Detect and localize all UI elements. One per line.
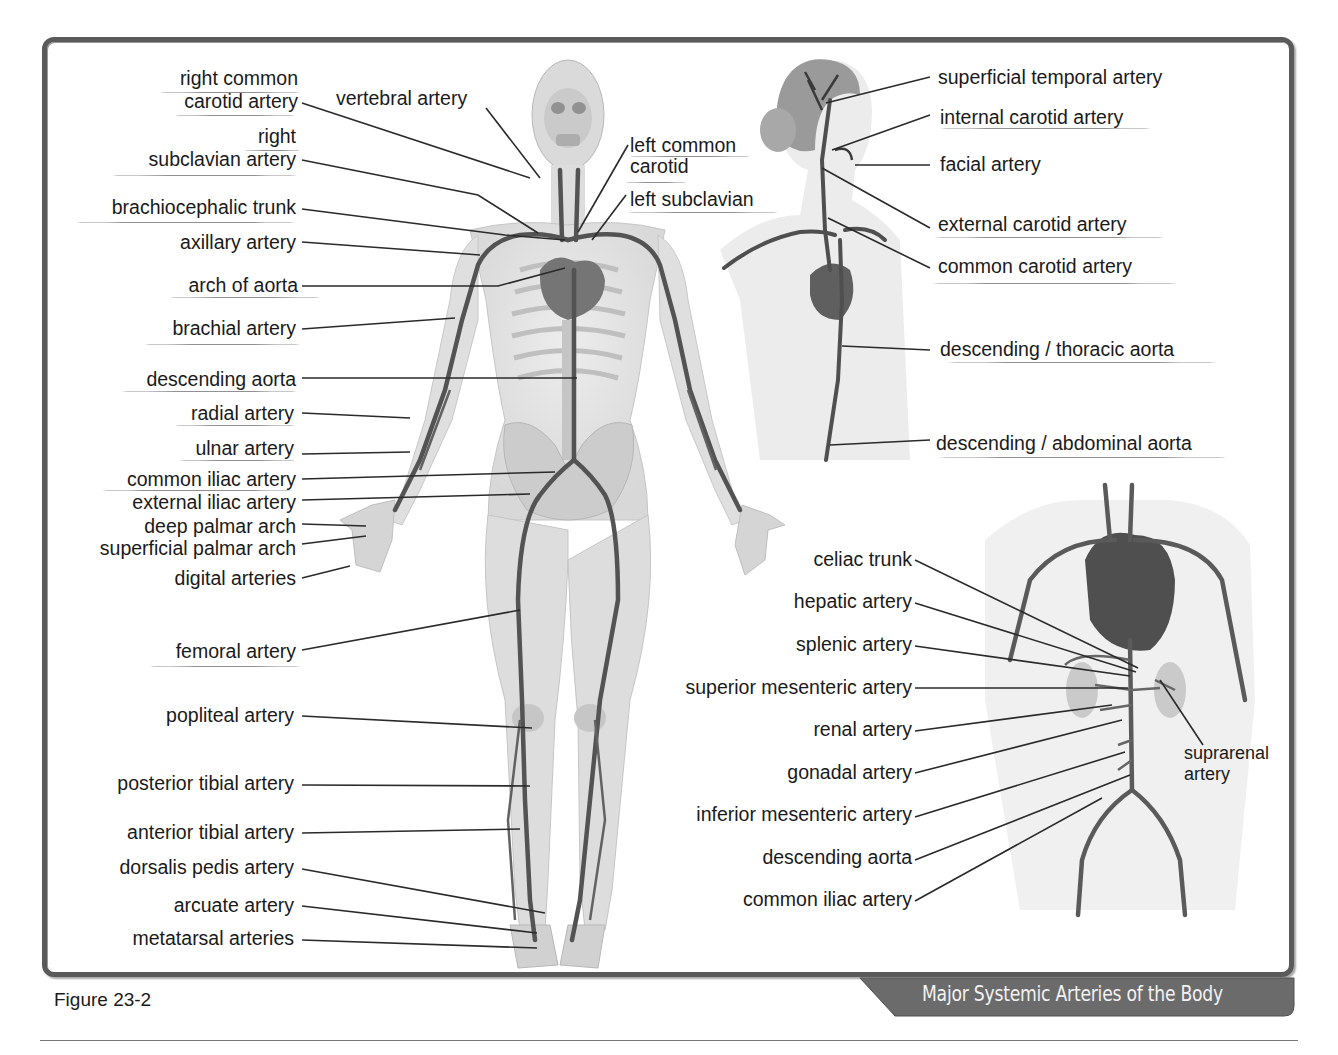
head-neck-figure: [720, 59, 910, 460]
label-dorsalis-pedis-artery: dorsalis pedis artery: [120, 857, 295, 877]
label-splenic-artery: splenic artery: [796, 634, 912, 654]
label-facial-artery: facial artery: [940, 154, 1041, 174]
label-arch-of-aorta: arch of aorta: [189, 275, 298, 295]
label-common-iliac-artery: common iliac artery: [127, 469, 296, 489]
label-popliteal-artery: popliteal artery: [166, 705, 294, 725]
label-descending-thoracic-aorta: descending / thoracic aorta: [940, 339, 1174, 359]
underline: [160, 92, 300, 93]
label-axillary-artery: axillary artery: [180, 232, 296, 252]
label-ulnar-artery: ulnar artery: [195, 438, 294, 458]
label-common-iliac-artery-abdominal: common iliac artery: [743, 889, 912, 909]
label-inferior-mesenteric-artery: inferior mesenteric artery: [696, 804, 912, 824]
label-superficial-temporal-artery: superficial temporal artery: [938, 67, 1162, 87]
underline: [175, 115, 295, 116]
label-descending-abdominal-aorta: descending / abdominal aorta: [936, 433, 1192, 453]
label-radial-artery: radial artery: [191, 403, 294, 423]
label-vertebral-artery: vertebral artery: [336, 88, 467, 108]
label-left-common-carotid-line1: left common: [630, 135, 736, 155]
label-superior-mesenteric-artery: superior mesenteric artery: [686, 677, 913, 697]
label-left-common-carotid-line2: carotid: [630, 156, 689, 176]
label-brachiocephalic-trunk: brachiocephalic trunk: [112, 197, 296, 217]
label-digital-arteries: digital arteries: [175, 568, 296, 588]
underline: [73, 222, 298, 223]
label-gonadal-artery: gonadal artery: [787, 762, 912, 782]
figure-title: Major Systemic Arteries of the Body: [922, 982, 1223, 1006]
label-deep-palmar-arch: deep palmar arch: [144, 516, 296, 536]
underline: [935, 457, 1230, 458]
underline: [100, 490, 295, 491]
label-internal-carotid-artery: internal carotid artery: [940, 107, 1123, 127]
label-superficial-palmar-arch: superficial palmar arch: [100, 538, 296, 558]
label-external-carotid-artery: external carotid artery: [938, 214, 1127, 234]
label-posterior-tibial-artery: posterior tibial artery: [117, 773, 294, 793]
figure-caption: Figure 23-2: [54, 989, 151, 1011]
underline: [170, 297, 320, 298]
label-femoral-artery: femoral artery: [176, 641, 296, 661]
underline: [145, 344, 300, 345]
label-right-common-carotid-line1: right common: [180, 68, 298, 88]
label-suprarenal-line2: artery: [1184, 764, 1230, 784]
label-left-subclavian: left subclavian: [630, 189, 754, 209]
underline: [938, 128, 1153, 129]
underline: [175, 425, 295, 426]
label-suprarenal-line1: suprarenal: [1184, 743, 1269, 763]
underline: [945, 362, 1220, 363]
label-renal-artery: renal artery: [813, 719, 912, 739]
underline: [150, 666, 300, 667]
label-hepatic-artery: hepatic artery: [794, 591, 912, 611]
label-right-subclavian-line2: subclavian artery: [149, 149, 296, 169]
label-descending-aorta-abdominal: descending aorta: [762, 847, 912, 867]
label-brachial-artery: brachial artery: [172, 318, 296, 338]
underline: [180, 460, 295, 461]
underline: [122, 391, 297, 392]
underline: [628, 212, 778, 213]
label-celiac-trunk: celiac trunk: [813, 549, 912, 569]
label-external-iliac-artery: external iliac artery: [132, 492, 296, 512]
underline: [626, 182, 686, 183]
label-metatarsal-arteries: metatarsal arteries: [133, 928, 294, 948]
underline: [930, 283, 1180, 284]
underline: [630, 156, 750, 157]
abdominal-figure: [985, 485, 1255, 915]
label-descending-aorta: descending aorta: [146, 369, 296, 389]
label-right-subclavian-line1: right: [258, 126, 296, 146]
label-anterior-tibial-artery: anterior tibial artery: [127, 822, 294, 842]
underline: [112, 175, 297, 176]
label-right-common-carotid-line2: carotid artery: [184, 91, 298, 111]
bottom-divider: [40, 1040, 1298, 1041]
underline: [245, 150, 300, 151]
label-arcuate-artery: arcuate artery: [174, 895, 294, 915]
label-common-carotid-artery: common carotid artery: [938, 256, 1132, 276]
